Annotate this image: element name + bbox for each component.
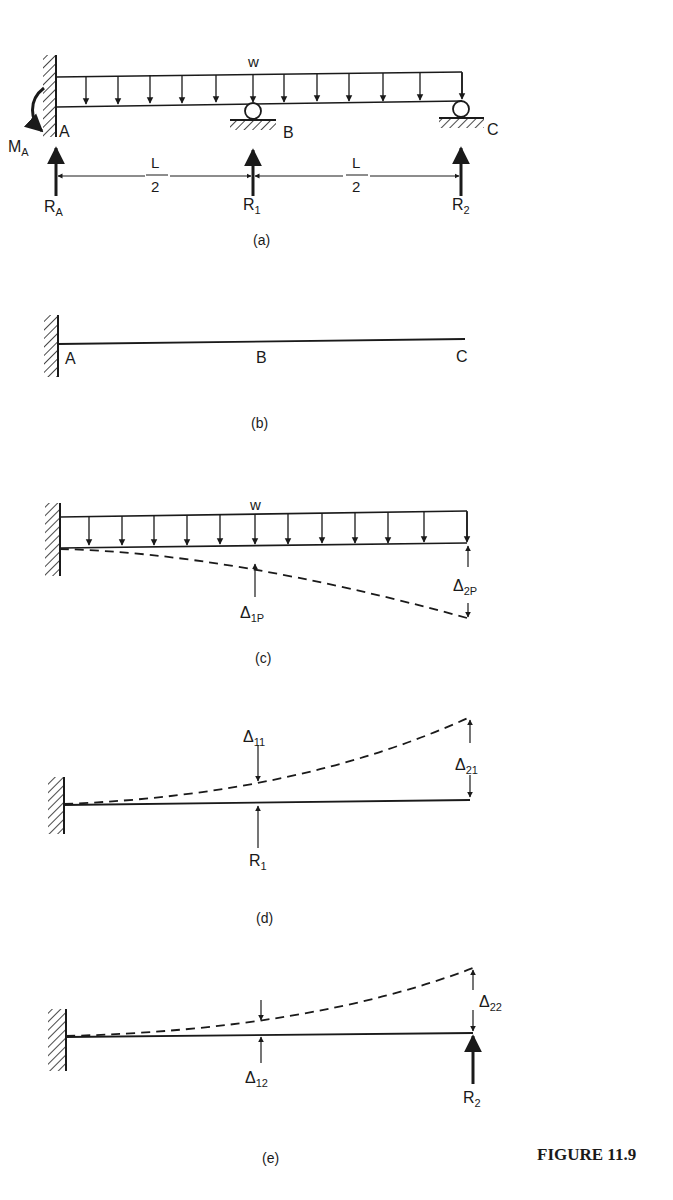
reaction-label-r2: R2 [452,196,470,216]
deflection-label: Δ21 [455,756,478,776]
panel-label: (d) [256,910,273,926]
load-label: w [249,496,261,513]
panel-a: w A B C MA L [8,53,499,248]
distributed-load [56,72,462,107]
deflected-shape [60,549,467,618]
panel-label: (b) [251,415,268,431]
deflection-label: Δ11 [243,728,265,748]
deflection-label: Δ22 [479,993,502,1013]
panel-d: Δ11 Δ21 R1 (d) [48,717,478,926]
panel-label: (e) [262,1150,279,1166]
deflected-shape [66,968,473,1036]
figure-caption: FIGURE 11.9 [537,1145,636,1164]
distributed-load [60,511,467,548]
roller-support-icon [439,101,484,128]
moment-label: MA [8,138,29,158]
reaction-label-r2: R2 [463,1089,481,1109]
deflection-label: Δ12 [245,1069,268,1089]
span-numerator: L [151,154,159,171]
deflection-label: Δ2P [453,577,477,597]
point-label-b: B [283,124,294,141]
point-label-c: C [487,121,499,138]
panel-label: (a) [253,232,270,248]
load-label: w [247,53,259,70]
reaction-label-r1: R1 [243,196,261,216]
reaction-label-r1: R1 [249,852,267,872]
reaction-label-ra: RA [44,198,64,218]
span-denominator: 2 [352,178,360,195]
point-label-a: A [65,350,76,367]
fixed-wall-icon [48,1009,66,1071]
point-label-b: B [256,349,267,366]
beam [58,339,465,344]
panel-e: Δ12 Δ22 R2 (e) [48,968,502,1166]
panel-label: (c) [255,650,271,666]
point-label-a: A [59,123,70,140]
deflection-label: Δ1P [240,604,264,624]
moment-arrow-icon [33,88,45,131]
fixed-wall-icon [45,503,60,576]
figure-11-9: w A B C MA L [0,0,673,1200]
fixed-wall-icon [44,315,58,377]
point-label-c: C [456,348,468,365]
span-denominator: 2 [151,178,159,195]
span-numerator: L [352,154,360,171]
panel-b: A B C (b) [44,315,468,431]
roller-support-icon [230,103,276,130]
panel-c: w Δ1P Δ2P (c) [45,496,477,666]
fixed-wall-icon [43,55,56,137]
fixed-wall-icon [48,777,64,834]
deflected-shape [64,717,470,804]
